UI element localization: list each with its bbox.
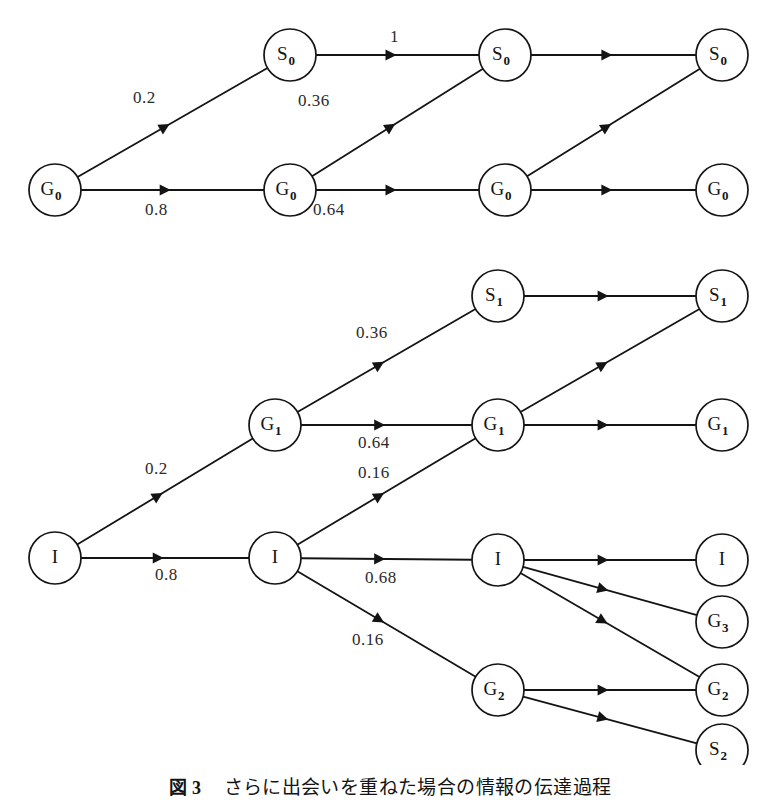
node-u-c4-G0: G0 bbox=[696, 164, 748, 216]
arrowhead-icon bbox=[598, 290, 609, 301]
arrowhead-icon bbox=[153, 552, 164, 563]
node-u-c2-G0: G0 bbox=[264, 164, 316, 216]
node-label-subscript: 1 bbox=[721, 294, 728, 309]
arrowhead-icon bbox=[596, 582, 608, 593]
node-l-c4-G1: G1 bbox=[696, 399, 748, 451]
node-label-subscript: 2 bbox=[498, 688, 505, 703]
node-l-c4-I: I bbox=[696, 534, 748, 586]
node-u-c4-S0: S0 bbox=[696, 29, 748, 81]
node-label-subscript: 0 bbox=[289, 53, 296, 68]
node-label-subscript: 2 bbox=[722, 688, 729, 703]
node-l-c3-G2: G2 bbox=[472, 664, 524, 716]
node-label-subscript: 1 bbox=[275, 423, 282, 438]
edge-weight-label: 0.2 bbox=[133, 88, 156, 107]
arrowheads-layer bbox=[150, 49, 612, 722]
edge-weight-label: 0.16 bbox=[352, 630, 384, 649]
edge-l-c1-I-to-l-c2-G1 bbox=[77, 438, 252, 544]
node-label-subscript: 0 bbox=[722, 188, 729, 203]
edge-weight-label: 0.2 bbox=[145, 459, 168, 478]
edge-weight-label: 0.16 bbox=[358, 463, 390, 482]
node-label-subscript: 3 bbox=[722, 620, 729, 635]
node-l-c2-G1: G1 bbox=[249, 399, 301, 451]
figure-caption: 図 3 さらに出会いを重ねた場合の情報の伝達過程 bbox=[0, 766, 780, 805]
arrowhead-icon bbox=[601, 49, 612, 60]
edge-l-c2-I-to-l-c3-G1 bbox=[297, 438, 475, 544]
arrowhead-icon bbox=[385, 49, 396, 60]
node-label-subscript: 0 bbox=[504, 53, 511, 68]
node-l-c4-S1: S1 bbox=[696, 270, 748, 322]
edge-u-c2-G0-to-u-c3-S0 bbox=[312, 69, 483, 176]
arrowhead-icon bbox=[374, 553, 385, 564]
node-label-subscript: 0 bbox=[290, 188, 297, 203]
node-label-subscript: 1 bbox=[722, 423, 729, 438]
node-label-subscript: 0 bbox=[721, 53, 728, 68]
arrowhead-icon bbox=[150, 493, 162, 503]
node-l-c3-S1: S1 bbox=[472, 270, 524, 322]
node-l-c4-S2: S2 bbox=[696, 724, 748, 765]
arrowhead-icon bbox=[598, 554, 609, 565]
edge-u-c3-G0-to-u-c4-S0 bbox=[527, 69, 700, 177]
node-u-c3-G0: G0 bbox=[479, 164, 531, 216]
edge-weight-label: 0.68 bbox=[365, 568, 397, 587]
arrowhead-icon bbox=[599, 124, 611, 135]
node-l-c1-I: I bbox=[29, 532, 81, 584]
arrowhead-icon bbox=[374, 419, 385, 430]
figure-container: G0S0G0S0G0S0G0IG1IS1G1IG2S1G1IG3G2S2 0.2… bbox=[0, 0, 780, 805]
node-label: I bbox=[272, 546, 278, 567]
edges-layer bbox=[77, 55, 700, 743]
node-u-c2-S0: S0 bbox=[264, 29, 316, 81]
edge-weight-label: 0.36 bbox=[356, 323, 388, 342]
node-label: I bbox=[719, 548, 725, 569]
node-u-c1-G0: G0 bbox=[29, 164, 81, 216]
arrowhead-icon bbox=[596, 711, 608, 722]
edge-weight-label: 0.36 bbox=[298, 91, 330, 110]
edge-l-c3-I-to-l-c4-G3 bbox=[523, 567, 697, 615]
edge-weight-label: 0.64 bbox=[358, 433, 390, 452]
arrowhead-icon bbox=[383, 124, 395, 135]
edge-u-c1-G0-to-u-c2-S0 bbox=[78, 68, 268, 177]
node-label-subscript: 0 bbox=[505, 188, 512, 203]
node-label-subscript: 1 bbox=[498, 423, 505, 438]
node-l-c3-I: I bbox=[472, 534, 524, 586]
arrowhead-icon bbox=[601, 184, 612, 195]
node-l-c3-G1: G1 bbox=[472, 399, 524, 451]
node-l-c4-G2: G2 bbox=[696, 664, 748, 716]
edge-weight-label: 0.8 bbox=[155, 565, 178, 584]
edge-weight-label: 1 bbox=[390, 27, 399, 46]
arrowhead-icon bbox=[598, 419, 609, 430]
edge-weight-label: 0.8 bbox=[145, 200, 168, 219]
edge-l-c2-I-to-l-c3-G2 bbox=[297, 571, 475, 677]
node-label-subscript: 1 bbox=[497, 294, 504, 309]
node-label-subscript: 2 bbox=[721, 748, 728, 763]
edge-l-c3-G2-to-l-c4-S2 bbox=[523, 697, 697, 744]
node-label: I bbox=[495, 548, 501, 569]
node-u-c3-S0: S0 bbox=[479, 29, 531, 81]
edge-weight-label: 0.64 bbox=[313, 200, 345, 219]
arrowhead-icon bbox=[385, 184, 396, 195]
caption-number: 図 3 bbox=[169, 773, 202, 799]
edge-l-c3-G1-to-l-c4-S1 bbox=[521, 309, 700, 412]
caption-text: さらに出会いを重ねた場合の情報の伝達過程 bbox=[224, 772, 612, 799]
edge-l-c3-I-to-l-c4-G2 bbox=[520, 573, 699, 677]
arrowhead-icon bbox=[160, 184, 171, 195]
node-l-c2-I: I bbox=[249, 532, 301, 584]
edge-l-c2-I-to-l-c3-I bbox=[301, 558, 472, 560]
node-label-subscript: 0 bbox=[55, 188, 62, 203]
graph-canvas: G0S0G0S0G0S0G0IG1IS1G1IG2S1G1IG3G2S2 0.2… bbox=[0, 0, 780, 765]
arrowhead-icon bbox=[598, 684, 609, 695]
nodes-layer: G0S0G0S0G0S0G0IG1IS1G1IG2S1G1IG3G2S2 bbox=[29, 29, 748, 765]
node-l-c4-G3: G3 bbox=[696, 596, 748, 648]
node-label: I bbox=[52, 546, 58, 567]
